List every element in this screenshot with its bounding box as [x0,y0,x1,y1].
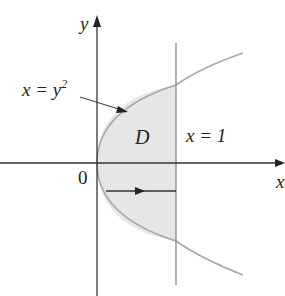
y-axis-arrow-icon [93,15,101,27]
diagram: y x 0 x = y2 D x = 1 [0,0,285,296]
region-label: D [135,127,149,147]
diagram-canvas [0,0,285,296]
x-axis-label: x [276,172,284,191]
curve-equation-label: x = y2 [22,80,67,99]
x-axis-arrow-icon [275,159,285,167]
line-equation-label: x = 1 [186,126,226,145]
y-axis-label: y [80,14,88,33]
curve-equation-exponent: 2 [61,77,67,91]
origin-label: 0 [78,168,88,187]
curve-equation-text: x = y [22,79,61,100]
